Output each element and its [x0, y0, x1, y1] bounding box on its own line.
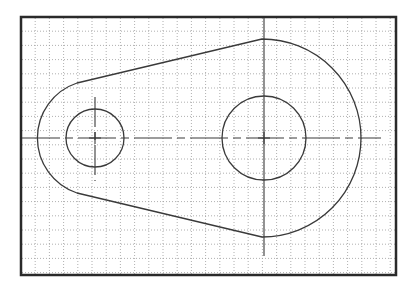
cad-drawing	[0, 0, 412, 290]
drawing-frame	[21, 17, 396, 275]
drawing-canvas	[0, 0, 412, 290]
grid	[22, 18, 395, 274]
